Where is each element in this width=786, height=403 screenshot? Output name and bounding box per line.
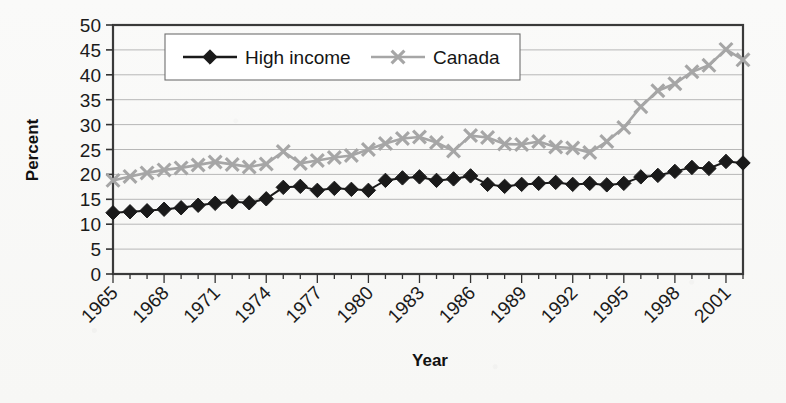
y-tick-label: 35: [80, 90, 101, 111]
x-tick-label: 1995: [588, 282, 633, 327]
data-point-diamond: [719, 154, 733, 168]
data-point-diamond: [344, 182, 358, 196]
data-point-x: [668, 77, 681, 90]
y-tick-label: 50: [80, 15, 101, 36]
x-axis-title: Year: [412, 351, 448, 370]
x-tick-label: 1992: [537, 282, 582, 327]
data-point-x: [703, 59, 716, 72]
data-point-diamond: [566, 177, 580, 191]
x-tick-label: 1983: [384, 282, 429, 327]
data-point-diamond: [310, 183, 324, 197]
data-point-diamond: [140, 204, 154, 218]
data-point-diamond: [327, 181, 341, 195]
chart-page: 05101520253035404550 1965196819711974197…: [0, 0, 786, 403]
y-tick-label: 30: [80, 115, 101, 136]
data-point-x: [686, 65, 699, 78]
data-point-diamond: [293, 179, 307, 193]
x-tick-label: 1968: [128, 282, 173, 327]
data-point-x: [617, 121, 630, 134]
data-point-diamond: [634, 170, 648, 184]
y-tick-label: 25: [80, 140, 101, 161]
chart-legend: High incomeCanada: [165, 34, 520, 80]
y-tick-label: 10: [80, 214, 101, 235]
data-point-diamond: [463, 169, 477, 183]
data-point-diamond: [378, 173, 392, 187]
data-point-diamond: [361, 183, 375, 197]
x-tick-label: 1974: [230, 282, 275, 327]
data-point-diamond: [497, 179, 511, 193]
data-point-diamond: [736, 156, 750, 170]
x-axis-tick-labels: 1965196819711974197719801983198619891992…: [77, 282, 735, 327]
data-point-diamond: [429, 173, 443, 187]
data-point-diamond: [123, 205, 137, 219]
data-point-diamond: [668, 164, 682, 178]
data-point-diamond: [225, 195, 239, 209]
data-point-x: [600, 135, 613, 148]
x-tick-label: 1986: [435, 282, 480, 327]
y-tick-label: 5: [90, 239, 101, 260]
data-point-diamond: [480, 177, 494, 191]
data-point-diamond: [600, 178, 614, 192]
legend-label: High income: [245, 47, 351, 68]
data-point-diamond: [259, 192, 273, 206]
data-point-x: [634, 100, 647, 113]
data-point-diamond: [531, 176, 545, 190]
data-point-diamond: [617, 176, 631, 190]
x-axis-tick-marks: [113, 274, 743, 283]
data-point-diamond: [549, 175, 563, 189]
x-tick-label: 1989: [486, 282, 531, 327]
data-point-diamond: [514, 177, 528, 191]
data-point-diamond: [106, 206, 120, 220]
x-tick-label: 1998: [639, 282, 684, 327]
data-point-x: [277, 145, 290, 158]
y-tick-label: 40: [80, 65, 101, 86]
x-tick-label: 1965: [77, 282, 122, 327]
data-point-diamond: [395, 171, 409, 185]
data-point-diamond: [208, 196, 222, 210]
y-tick-label: 0: [90, 264, 101, 285]
data-point-x: [447, 145, 460, 158]
data-point-diamond: [446, 172, 460, 186]
y-tick-label: 20: [80, 164, 101, 185]
x-tick-label: 1971: [179, 282, 224, 327]
line-chart: 05101520253035404550 1965196819711974197…: [0, 0, 786, 403]
data-point-diamond: [685, 160, 699, 174]
data-point-diamond: [242, 196, 256, 210]
data-point-diamond: [651, 168, 665, 182]
data-point-x: [651, 84, 664, 97]
series-line: [113, 162, 743, 213]
data-point-diamond: [583, 176, 597, 190]
y-tick-label: 45: [80, 40, 101, 61]
data-point-x: [430, 136, 443, 149]
x-tick-label: 2001: [690, 282, 735, 327]
x-tick-label: 1977: [281, 282, 326, 327]
data-point-diamond: [157, 202, 171, 216]
data-point-diamond: [412, 170, 426, 184]
data-point-diamond: [702, 161, 716, 175]
data-point-diamond: [276, 180, 290, 194]
data-point-diamond: [191, 198, 205, 212]
y-axis-tick-labels: 05101520253035404550: [80, 15, 101, 285]
data-point-diamond: [174, 201, 188, 215]
y-axis-title: Percent: [23, 118, 42, 181]
x-tick-label: 1980: [332, 282, 377, 327]
y-tick-label: 15: [80, 189, 101, 210]
legend-label: Canada: [433, 47, 500, 68]
